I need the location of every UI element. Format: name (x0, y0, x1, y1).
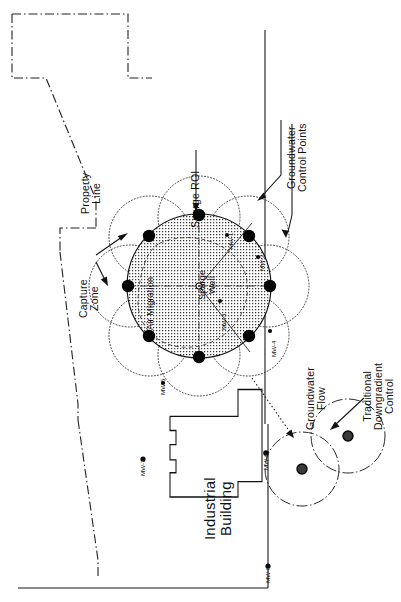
control-point (193, 351, 205, 363)
control-point (143, 330, 155, 342)
mw-marker-mw4 (268, 329, 272, 333)
control-point (264, 280, 276, 292)
label-groundwater-control-points: Groundwater Control Points (286, 123, 308, 192)
label-mw1: MW-1 (228, 233, 235, 249)
control-point (243, 230, 255, 242)
label-mw4: MW-4 (271, 341, 278, 357)
leader-traditional-control (335, 398, 364, 425)
leader-capture-zone-a (96, 237, 122, 255)
label-traditional-downgradient-control: Traditional Downgradient Control (362, 363, 395, 430)
extraction-well-markers (297, 431, 353, 474)
label-property-line: Property Line (80, 173, 102, 214)
label-mw2: MW-2 (259, 255, 266, 271)
label-mw7: MW-7 (140, 460, 147, 476)
label-capture-zone: Capture Zone (78, 279, 100, 318)
label-groundwater-flow: Groundwater Flow (305, 367, 327, 430)
leader-capture-zone-b (96, 262, 105, 280)
label-sparge-roi: Sparge ROI (190, 171, 201, 228)
control-point (143, 230, 155, 242)
label-mw3: MW-3 (221, 314, 228, 330)
label-sparge-well: Sparge Well (198, 270, 217, 300)
site-plan-diagram: Property Line Capture Zone Sparge ROI Gr… (0, 0, 401, 602)
label-air-migration: Air Migration (146, 277, 156, 330)
label-mw8: MW-8 (265, 567, 272, 583)
label-mw5: MW-5 (160, 379, 167, 395)
label-industrial-building: Industrial Building (202, 477, 234, 540)
label-mw6: MW-6 (263, 454, 270, 470)
control-point (243, 330, 255, 342)
mw-marker-mw3 (218, 299, 222, 303)
control-point (122, 280, 134, 292)
